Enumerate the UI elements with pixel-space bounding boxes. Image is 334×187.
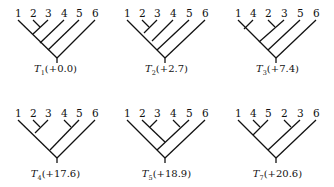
svg-text:4: 4 [250, 7, 257, 19]
tree-diagram-t4: 1 2 3 4 5 6 [0, 94, 111, 169]
svg-text:5: 5 [297, 7, 304, 19]
svg-text:3: 3 [154, 7, 161, 19]
svg-text:1: 1 [15, 7, 22, 19]
svg-text:4: 4 [61, 7, 68, 19]
svg-text:2: 2 [30, 107, 37, 119]
tree-caption-t2: T2(+2.7) [111, 63, 222, 77]
svg-text:1: 1 [235, 107, 242, 119]
svg-text:1: 1 [235, 7, 242, 19]
tree-caption-t5: T5(+18.9) [111, 168, 222, 182]
tree-diagram-t3: 1 4 2 3 5 6 [222, 0, 333, 70]
svg-text:1: 1 [15, 107, 22, 119]
svg-text:4: 4 [170, 7, 177, 19]
svg-text:5: 5 [76, 107, 83, 119]
svg-text:5: 5 [186, 107, 193, 119]
svg-text:3: 3 [45, 7, 52, 19]
tree-panel-t2: 1 2 3 4 5 6 T2(+2.7) [111, 0, 222, 93]
svg-text:3: 3 [154, 107, 161, 119]
tree-diagram-t1: 1 2 3 4 5 6 [0, 0, 111, 70]
svg-text:3: 3 [281, 7, 288, 19]
svg-text:5: 5 [265, 107, 272, 119]
tree-caption-t4: T4(+17.6) [0, 168, 111, 182]
svg-text:5: 5 [76, 7, 83, 19]
tree-caption-t3: T3(+7.4) [222, 63, 333, 77]
svg-text:2: 2 [139, 7, 146, 19]
svg-text:6: 6 [92, 107, 99, 119]
tree-diagram-t5: 1 2 3 4 5 6 [111, 94, 222, 169]
tree-caption-t7: T7(+20.6) [222, 168, 333, 182]
svg-text:1: 1 [124, 7, 131, 19]
svg-text:1: 1 [124, 107, 131, 119]
tree-caption-t1: T1(+0.0) [0, 63, 111, 77]
tree-panel-t1: 1 2 3 4 5 6 T1(+0.0) [0, 0, 111, 93]
svg-text:4: 4 [170, 107, 177, 119]
svg-text:6: 6 [313, 7, 320, 19]
svg-text:6: 6 [92, 7, 99, 19]
tree-panel-t7: 1 4 5 2 3 6 T7(+20.6) [222, 94, 333, 187]
svg-text:6: 6 [202, 7, 209, 19]
svg-text:6: 6 [202, 107, 209, 119]
svg-text:2: 2 [281, 107, 288, 119]
tree-diagram-t7: 1 4 5 2 3 6 [222, 94, 333, 169]
svg-text:4: 4 [250, 107, 257, 119]
svg-text:2: 2 [265, 7, 272, 19]
tree-panel-t5: 1 2 3 4 5 6 T5(+18.9) [111, 94, 222, 187]
svg-text:2: 2 [30, 7, 37, 19]
tree-diagram-t2: 1 2 3 4 5 6 [111, 0, 222, 70]
svg-text:6: 6 [313, 107, 320, 119]
svg-text:2: 2 [139, 107, 146, 119]
svg-text:4: 4 [61, 107, 68, 119]
svg-text:3: 3 [297, 107, 304, 119]
svg-text:5: 5 [186, 7, 193, 19]
tree-panel-t4: 1 2 3 4 5 6 T4(+17.6) [0, 94, 111, 187]
tree-panel-t3: 1 4 2 3 5 6 T3(+7.4) [222, 0, 333, 93]
svg-text:3: 3 [45, 107, 52, 119]
